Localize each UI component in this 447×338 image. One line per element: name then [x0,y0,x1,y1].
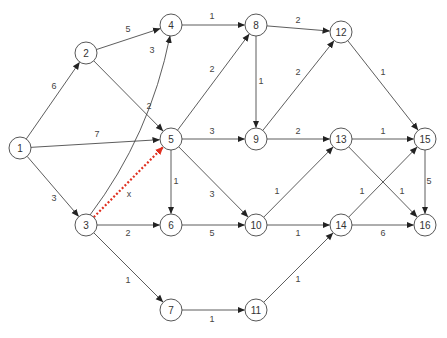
edge-1-5 [31,140,160,148]
edge-weight-5-10: 3 [209,189,214,199]
edge-weight-5-9: 3 [209,126,214,136]
edge-weight-1-5: 7 [94,129,99,139]
edge-weight-8-9: 1 [258,76,263,86]
edge-weight-3-4: 3 [149,45,154,55]
node-10: 10 [245,214,267,236]
edge-weight-8-12: 2 [295,15,300,25]
node-11: 11 [245,299,267,321]
edge-3-7 [94,233,163,302]
edge-weight-5-8: 2 [209,64,214,74]
node-7: 7 [160,299,182,321]
node-1: 1 [9,137,31,159]
edge-weight-6-10: 5 [209,228,214,238]
edge-labels-layer: 67352321x12313512122111111165 [51,11,431,324]
node-label: 10 [250,220,262,231]
node-label: 11 [251,305,262,316]
edge-weight-14-15: 1 [359,186,364,196]
node-8: 8 [245,14,267,36]
node-label: 6 [168,220,174,231]
node-label: 16 [419,220,431,231]
node-label: 8 [253,20,259,31]
node-9: 9 [245,128,267,150]
node-14: 14 [330,214,352,236]
graph-canvas: 67352321x12313512122111111165 1234567891… [0,0,447,338]
node-label: 15 [419,134,431,145]
node-13: 13 [330,128,352,150]
node-label: 4 [168,20,174,31]
edge-5-8 [178,34,250,130]
edge-1-3 [27,156,78,216]
edge-weight-3-7: 1 [125,275,130,285]
edge-weight-1-3: 3 [51,193,56,203]
edge-weight-13-15: 1 [380,126,385,136]
edge-weight-15-16: 5 [426,176,431,186]
node-5: 5 [160,128,182,150]
edge-12-15 [348,41,418,130]
node-label: 14 [335,220,347,231]
edge-weight-10-14: 1 [295,228,300,238]
edge-8-12 [267,26,330,31]
edge-11-14 [264,233,333,302]
node-label: 3 [83,220,89,231]
node-6: 6 [160,214,182,236]
node-label: 2 [83,48,89,59]
node-2: 2 [75,42,97,64]
edge-weight-1-2: 6 [51,81,56,91]
node-label: 13 [335,134,347,145]
node-label: 9 [253,134,259,145]
edge-weight-14-16: 6 [380,228,385,238]
edge-weight-2-4: 5 [125,24,130,34]
edge-3-5 [94,147,163,217]
node-3: 3 [75,214,97,236]
edge-weight-13-16: 1 [399,186,404,196]
node-label: 7 [168,305,174,316]
edge-weight-5-6: 1 [173,176,178,186]
edge-2-5 [94,61,163,131]
node-label: 5 [168,134,174,145]
edge-1-2 [26,62,79,139]
edge-weight-4-8: 1 [209,11,214,21]
edge-9-12 [263,41,334,130]
edge-weight-9-13: 2 [295,126,300,136]
node-15: 15 [414,128,436,150]
edge-weight-2-5: 2 [146,101,151,111]
edge-weight-11-14: 1 [295,274,300,284]
nodes-layer: 12345678910111213141516 [9,14,436,321]
edge-weight-3-6: 2 [125,228,130,238]
edge-weight-9-12: 2 [295,67,300,77]
node-12: 12 [330,21,352,43]
node-16: 16 [414,214,436,236]
edge-weight-3-5: x [127,189,132,199]
node-4: 4 [160,14,182,36]
node-label: 1 [17,143,23,154]
edge-weight-12-15: 1 [380,67,385,77]
edges-layer [26,25,425,310]
edge-5-10 [179,147,248,217]
node-label: 12 [335,27,347,38]
edge-10-13 [264,147,333,217]
edge-weight-10-13: 1 [274,186,279,196]
edge-weight-7-11: 1 [209,314,214,324]
